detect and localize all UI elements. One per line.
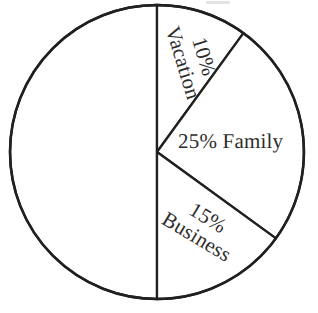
scan-artifact <box>206 1 230 4</box>
pie-slice-unlabeled[interactable] <box>10 5 157 299</box>
pie-chart: 10% Vacation 25% Family 15% Business <box>0 0 318 313</box>
pie-chart-graphic <box>0 0 318 313</box>
